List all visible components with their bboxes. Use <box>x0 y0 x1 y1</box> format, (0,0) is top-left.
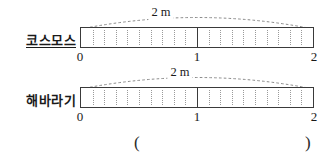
axis-label-sunflower-0: 0 <box>71 109 89 125</box>
ruler-minor-tick <box>278 30 279 45</box>
ruler-minor-tick <box>267 90 268 105</box>
ruler-minor-tick <box>93 90 94 105</box>
ruler-minor-tick <box>174 30 175 45</box>
ruler-minor-tick <box>104 30 105 45</box>
ruler-major-tick <box>197 88 198 107</box>
plant-label-sunflower: 해바라기 <box>8 90 76 109</box>
axis-label-cosmos-0: 0 <box>71 49 89 65</box>
answer-close-paren: ) <box>305 133 311 153</box>
ruler-minor-tick <box>255 30 256 45</box>
ruler-minor-tick <box>209 90 210 105</box>
worksheet-figure: 코스모스 2 m 0 1 2 해바라기 2 m 0 1 2 ( ) <box>0 0 330 162</box>
ruler-minor-tick <box>127 30 128 45</box>
axis-label-cosmos-1: 1 <box>188 49 206 65</box>
ruler-minor-tick <box>290 90 291 105</box>
ruler-minor-tick <box>220 30 221 45</box>
ruler-minor-tick <box>151 30 152 45</box>
ruler-minor-tick <box>174 90 175 105</box>
ruler-minor-tick <box>209 30 210 45</box>
ruler-minor-tick <box>185 30 186 45</box>
ruler-minor-tick <box>278 90 279 105</box>
ruler-minor-tick <box>162 30 163 45</box>
ruler-bar-cosmos <box>80 27 314 48</box>
axis-label-sunflower-1: 1 <box>188 109 206 125</box>
ruler-minor-tick <box>301 90 302 105</box>
ruler-minor-tick <box>127 90 128 105</box>
ruler-minor-tick <box>267 30 268 45</box>
ruler-minor-tick <box>255 90 256 105</box>
axis-label-cosmos-2: 2 <box>305 49 323 65</box>
ruler-minor-tick <box>93 30 94 45</box>
ruler-minor-tick <box>220 90 221 105</box>
ruler-minor-tick <box>301 30 302 45</box>
ruler-minor-tick <box>139 30 140 45</box>
ruler-minor-tick <box>151 90 152 105</box>
ruler-minor-tick <box>290 30 291 45</box>
ruler-minor-tick <box>139 90 140 105</box>
ruler-bar-sunflower <box>80 87 314 108</box>
ruler-major-tick <box>197 28 198 47</box>
ruler-minor-tick <box>104 90 105 105</box>
span-caption-sunflower: 2 m <box>167 65 192 80</box>
span-caption-cosmos: 2 m <box>148 5 173 20</box>
axis-label-sunflower-2: 2 <box>305 109 323 125</box>
ruler-minor-tick <box>116 90 117 105</box>
ruler-minor-tick <box>185 90 186 105</box>
ruler-minor-tick <box>116 30 117 45</box>
ruler-minor-tick <box>232 30 233 45</box>
answer-open-paren: ( <box>134 133 140 153</box>
ruler-minor-tick <box>243 90 244 105</box>
ruler-minor-tick <box>232 90 233 105</box>
ruler-minor-tick <box>162 90 163 105</box>
ruler-minor-tick <box>243 30 244 45</box>
plant-label-cosmos: 코스모스 <box>8 30 76 49</box>
